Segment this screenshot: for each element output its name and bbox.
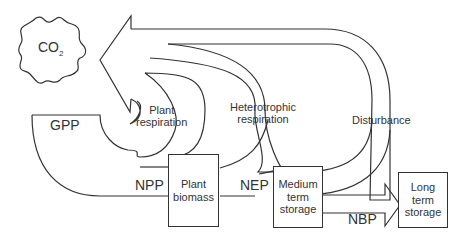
plant-respiration-label: Plant respiration: [136, 104, 187, 128]
disturbance-label: Disturbance: [352, 114, 411, 126]
co2-label: CO2: [38, 40, 63, 59]
long-term-storage-box: Long term storage: [398, 172, 448, 228]
medium-term-storage-box: Medium term storage: [273, 166, 323, 228]
carbon-flux-diagram: CO2 GPP NPP NEP NBP Plant respiration He…: [0, 0, 462, 238]
return-arrowhead: [100, 16, 131, 112]
heterotrophic-respiration-label: Heterotrophic respiration: [230, 101, 296, 125]
nbp-label: NBP: [348, 212, 377, 227]
gpp-label: GPP: [50, 118, 80, 133]
nep-label: NEP: [240, 178, 269, 193]
plant-biomass-box: Plant biomass: [168, 154, 219, 227]
npp-label: NPP: [135, 178, 164, 193]
